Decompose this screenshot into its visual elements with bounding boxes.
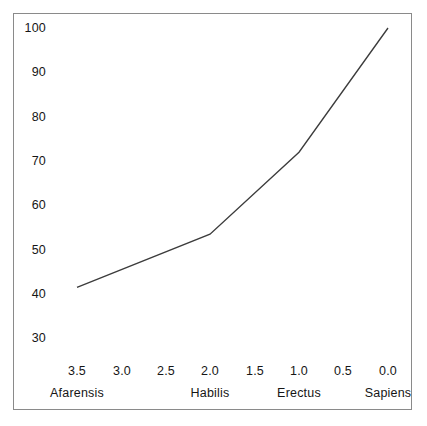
y-axis-tick-label: 60 — [0, 198, 46, 212]
x-axis-category-label: Afarensis — [32, 386, 122, 400]
y-axis-tick-label: 70 — [0, 154, 46, 168]
y-axis-tick-label: 30 — [0, 331, 46, 345]
x-axis-category-label: Habilis — [165, 386, 255, 400]
chart-figure: 10090807060504030 3.53.02.52.01.51.00.50… — [0, 0, 427, 426]
y-axis-tick-label: 50 — [0, 243, 46, 257]
y-axis-tick-label: 100 — [0, 21, 46, 35]
y-axis-tick-label: 40 — [0, 287, 46, 301]
x-axis-tick-label: 0.0 — [358, 364, 418, 378]
x-axis-category-label: Sapiens — [343, 386, 427, 400]
y-axis-tick-label: 80 — [0, 110, 46, 124]
plot-frame-border — [13, 13, 412, 410]
y-axis-tick-label: 90 — [0, 65, 46, 79]
x-axis-category-label: Erectus — [254, 386, 344, 400]
